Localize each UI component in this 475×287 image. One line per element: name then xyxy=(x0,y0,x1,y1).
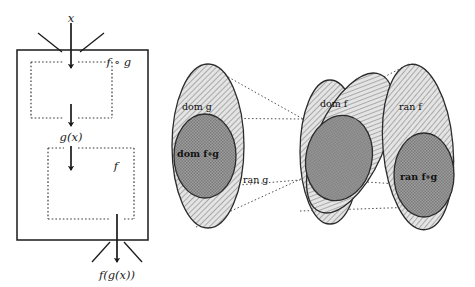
figure-root: x f ∘ g g xyxy=(0,0,475,287)
label-dom-fog: dom f∘g xyxy=(177,148,219,159)
label-ran-g: ran g xyxy=(243,174,268,185)
outer-box-label: f ∘ g xyxy=(105,55,131,69)
label-ran-f: ran f xyxy=(399,101,423,112)
inner-box-f xyxy=(48,148,134,219)
output-funnel-left xyxy=(92,242,110,262)
domain-range-venn-diagram: dom g dom f∘g dom f ran g ran f ran f∘g xyxy=(172,61,460,233)
input-label: x xyxy=(68,11,75,25)
label-dom-f: dom f xyxy=(320,98,349,109)
outer-box-fog xyxy=(17,50,148,240)
label-ran-fog: ran f∘g xyxy=(400,171,437,182)
composition-figure: x f ∘ g g xyxy=(0,0,475,287)
input-funnel-left xyxy=(38,33,62,52)
intermediate-label: g(x) xyxy=(60,130,83,144)
output-label: f(g(x)) xyxy=(98,268,135,282)
output-funnel-right xyxy=(124,242,142,262)
input-funnel-right xyxy=(80,33,104,52)
label-dom-g: dom g xyxy=(182,101,212,112)
venn-group-left: dom g dom f∘g xyxy=(172,64,244,228)
inner-box-f-label: f xyxy=(113,159,120,173)
composition-block-diagram: x f ∘ g g xyxy=(17,11,148,282)
